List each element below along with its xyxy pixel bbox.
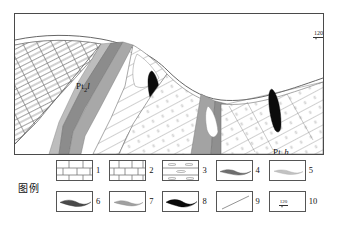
legend-num-2: 2 xyxy=(149,166,153,175)
dip-value: 120° xyxy=(314,30,324,36)
legend-num-5: 5 xyxy=(309,166,313,175)
limestone-brick-pattern-icon xyxy=(109,160,146,181)
legend-title: 图例 xyxy=(18,180,40,195)
legend-item-9: 9 xyxy=(216,191,269,212)
legend-num-9: 9 xyxy=(256,197,260,206)
unit-label-ptl: Pt2l xyxy=(76,81,90,93)
legend-num-10: 10 xyxy=(309,197,318,206)
legend-item-5: 5 xyxy=(269,160,322,181)
cross-section-frame: Pt2l Pt2h 120° xyxy=(14,13,324,155)
dip-strike-symbol-icon: 120 xyxy=(269,191,306,212)
dip-strike-symbol: 120° xyxy=(313,30,324,38)
legend-item-8: 8 xyxy=(162,191,215,212)
legend-item-10: 120 10 xyxy=(269,191,322,212)
legend-num-3: 3 xyxy=(202,166,206,175)
banded-lens-pattern-icon xyxy=(162,160,199,181)
legend-num-7: 7 xyxy=(149,197,153,206)
legend-dip-value: 120 xyxy=(279,199,289,206)
ore-lens-dark-gray-icon xyxy=(216,160,253,181)
legend-item-1: 1 xyxy=(56,160,109,181)
legend-item-3: 3 xyxy=(162,160,215,181)
unit-label-pth: Pt2h xyxy=(273,147,289,155)
legend-row-1: 1 2 xyxy=(56,160,322,181)
legend-item-2: 2 xyxy=(109,160,162,181)
ore-lens-medium-gray-icon xyxy=(109,191,146,212)
cross-section-drawing xyxy=(15,14,323,154)
legend-item-7: 7 xyxy=(109,191,162,212)
ore-lens-black-icon xyxy=(162,191,199,212)
legend-num-1: 1 xyxy=(96,166,100,175)
legend-num-4: 4 xyxy=(256,166,260,175)
ore-lens-medium-dark-icon xyxy=(56,191,93,212)
figure-root: Pt2l Pt2h 120° 图例 xyxy=(0,0,337,236)
dolomite-brick-pattern-icon xyxy=(56,160,93,181)
legend-num-8: 8 xyxy=(202,197,206,206)
legend-item-4: 4 xyxy=(216,160,269,181)
legend-num-6: 6 xyxy=(96,197,100,206)
legend-row-2: 6 7 8 xyxy=(56,191,322,212)
legend: 图例 1 xyxy=(14,158,322,226)
ore-lens-light-gray-icon xyxy=(269,160,306,181)
legend-item-6: 6 xyxy=(56,191,109,212)
fault-line-icon xyxy=(216,191,253,212)
